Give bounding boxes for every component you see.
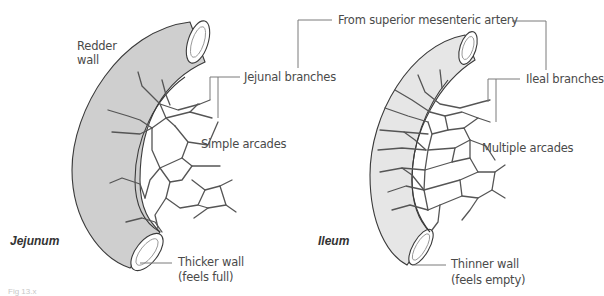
thicker-wall-label-line1: Thicker wall [177,255,244,269]
ileal-branches-label: Ileal branches [526,72,604,86]
jejunum-ileum-comparison-diagram: Redder wall Jejunal branches Simple arca… [0,0,604,296]
jejunal-branches-label: Jejunal branches [243,70,336,84]
multiple-arcades-label: Multiple arcades [482,141,574,155]
figure-caption: Fig 13.x [8,287,36,296]
sma-bracket-leader [298,20,332,68]
ileal-branches-leader [488,79,520,122]
sma-bracket-leader-right [512,21,546,70]
jejunal-branches-leader [210,77,240,118]
thicker-wall-label-line2: (feels full) [178,270,233,284]
thinner-wall-label-line1: Thinner wall [450,257,519,271]
thinner-wall-label-line2: (feels empty) [451,273,525,287]
ileum-title: Ileum [318,234,350,248]
redder-wall-label-line2: wall [77,53,99,67]
sma-label: From superior mesenteric artery [338,13,518,27]
redder-wall-label-line1: Redder [77,39,117,53]
simple-arcades-label: Simple arcades [201,137,287,151]
jejunum-title: Jejunum [10,234,60,248]
